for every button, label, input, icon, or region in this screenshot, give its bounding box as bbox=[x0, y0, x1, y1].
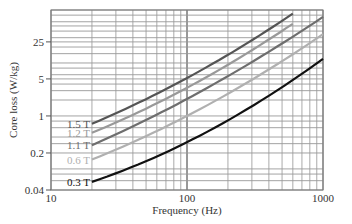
series-label: 1.1 T bbox=[67, 139, 90, 151]
x-tick-label: 100 bbox=[179, 192, 196, 204]
series-label: 1.2 T bbox=[67, 127, 90, 139]
x-tick-label: 1000 bbox=[312, 192, 335, 204]
series-label: 0.3 T bbox=[67, 176, 90, 188]
core-loss-chart: 0.040.21525 101001000 1.5 T1.2 T1.1 T0.6… bbox=[0, 0, 352, 224]
series-line-06T bbox=[92, 34, 323, 159]
series-line-15T bbox=[92, 14, 293, 124]
series-lines bbox=[92, 14, 323, 182]
series-line-12T bbox=[92, 24, 293, 133]
y-tick-label: 0.2 bbox=[30, 147, 44, 159]
y-axis-ticks: 0.040.21525 bbox=[25, 36, 51, 196]
series-labels: 1.5 T1.2 T1.1 T0.6 T0.3 T bbox=[67, 118, 90, 188]
series-line-11T bbox=[92, 17, 323, 145]
y-axis-label: Core loss (W/kg) bbox=[7, 62, 20, 138]
x-tick-label: 10 bbox=[46, 192, 58, 204]
x-axis-ticks: 101001000 bbox=[46, 192, 335, 204]
x-axis-label: Frequency (Hz) bbox=[152, 204, 222, 217]
y-tick-label: 25 bbox=[33, 36, 45, 48]
y-tick-label: 1 bbox=[39, 110, 45, 122]
series-label: 0.6 T bbox=[67, 154, 90, 166]
y-tick-label: 5 bbox=[39, 73, 45, 85]
y-tick-label: 0.04 bbox=[25, 184, 45, 196]
